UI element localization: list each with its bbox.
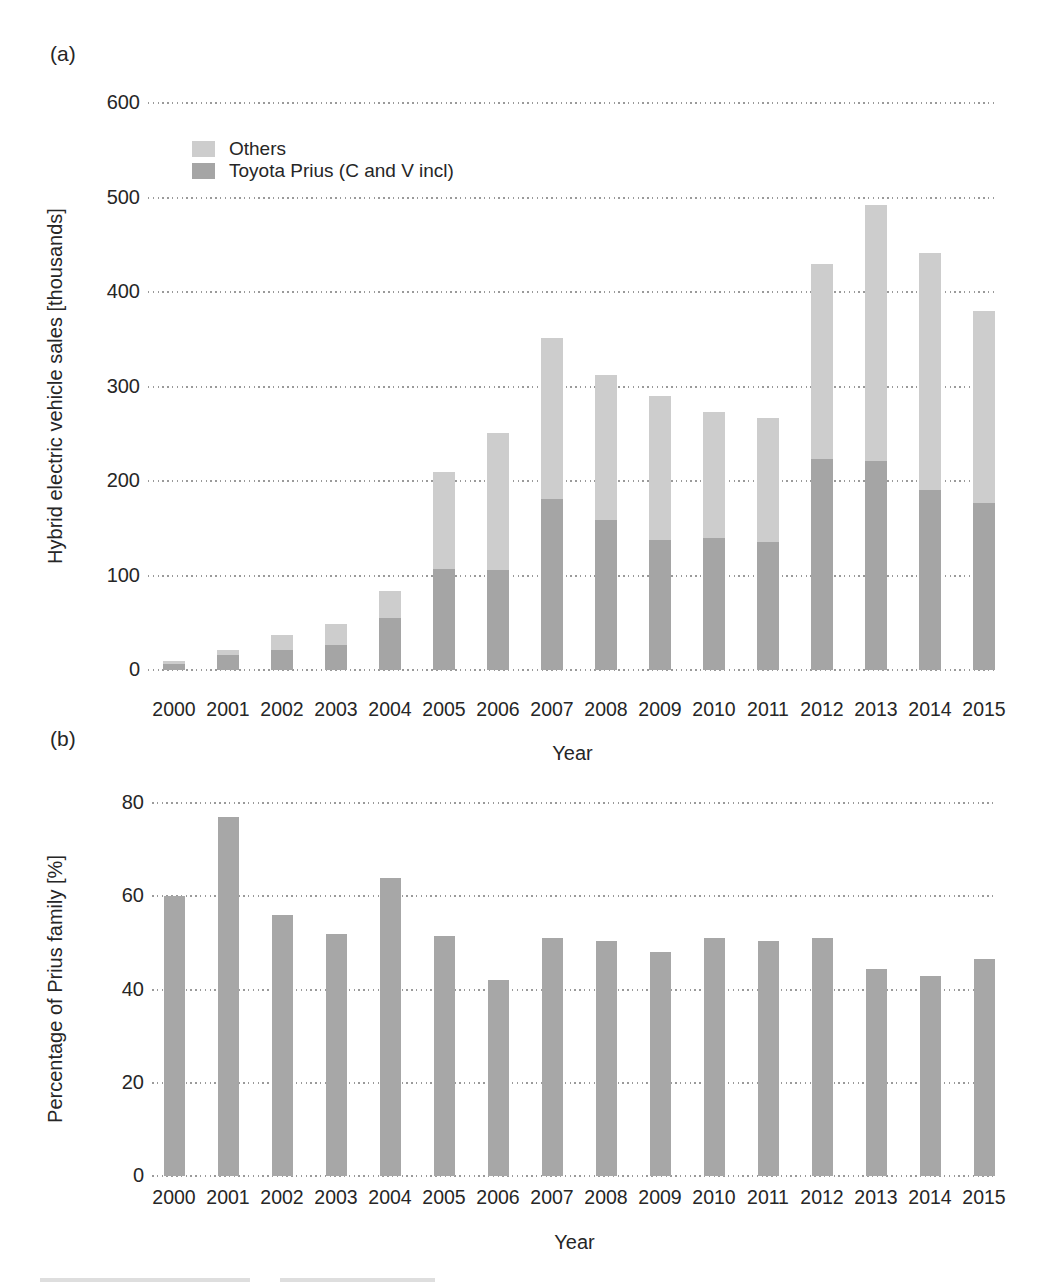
bar-2009-prius (649, 540, 671, 670)
panel-b-x-tick-label-2015: 2015 (957, 1186, 1011, 1209)
bar-2007-prius (541, 499, 563, 670)
bar-2012-prius (811, 459, 833, 670)
bar-2006-percent (488, 980, 509, 1176)
panel-b-x-tick-label-2010: 2010 (687, 1186, 741, 1209)
panel-b-x-tick-label-2005: 2005 (417, 1186, 471, 1209)
others-legend-swatch (192, 141, 215, 157)
panel-b-x-axis-title: Year (152, 1231, 997, 1254)
panel-a-y-tick-label-0: 0 (0, 658, 140, 681)
bar-2014-prius (919, 490, 941, 670)
bar-2002-others (271, 635, 293, 650)
panel-a-x-tick-label-2002: 2002 (255, 698, 309, 721)
bar-2004-others (379, 591, 401, 618)
bar-2013-percent (866, 969, 887, 1176)
panel-b-y-tick-label-20: 20 (0, 1071, 144, 1094)
bar-2001-percent (218, 817, 239, 1176)
panel-b-gridline-80 (152, 802, 997, 804)
bar-2000-prius (163, 664, 185, 670)
others-legend-label: Others (229, 138, 286, 160)
bar-2010-percent (704, 938, 725, 1176)
bar-2011-prius (757, 542, 779, 670)
bar-2008-prius (595, 520, 617, 670)
bar-2007-others (541, 338, 563, 499)
panel-b-x-tick-label-2003: 2003 (309, 1186, 363, 1209)
panel-a-y-tick-label-200: 200 (0, 469, 140, 492)
panel-a-y-tick-label-400: 400 (0, 280, 140, 303)
legend-item-others: Others (192, 138, 454, 160)
bar-2002-percent (272, 915, 293, 1176)
bar-2010-others (703, 412, 725, 538)
bar-2003-prius (325, 645, 347, 670)
bar-2015-others (973, 311, 995, 503)
bar-2014-others (919, 253, 941, 490)
panel-a-y-tick-label-600: 600 (0, 91, 140, 114)
bar-2000-others (163, 661, 185, 665)
panel-b-y-tick-label-80: 80 (0, 791, 144, 814)
panel-b-x-tick-label-2004: 2004 (363, 1186, 417, 1209)
bar-2014-percent (920, 976, 941, 1176)
panel-a-x-tick-label-2015: 2015 (957, 698, 1011, 721)
panel-a-y-tick-label-100: 100 (0, 564, 140, 587)
bar-2009-others (649, 396, 671, 540)
panel-a-x-tick-label-2003: 2003 (309, 698, 363, 721)
legend-item-prius: Toyota Prius (C and V incl) (192, 160, 454, 182)
bar-2013-prius (865, 461, 887, 670)
bar-2004-percent (380, 878, 401, 1176)
panel-a-x-tick-label-2006: 2006 (471, 698, 525, 721)
legend: Others Toyota Prius (C and V incl) (192, 138, 454, 182)
panel-a-gridline-600 (148, 102, 997, 104)
bar-2008-percent (596, 941, 617, 1176)
bar-2011-others (757, 418, 779, 543)
panel-a-x-tick-label-2008: 2008 (579, 698, 633, 721)
panel-b-label: (b) (50, 727, 76, 751)
bar-2006-prius (487, 570, 509, 670)
bar-2011-percent (758, 941, 779, 1176)
panel-b-x-tick-label-2007: 2007 (525, 1186, 579, 1209)
panel-a-x-tick-label-2000: 2000 (147, 698, 201, 721)
panel-b-y-tick-label-0: 0 (0, 1164, 144, 1187)
panel-b-x-tick-label-2013: 2013 (849, 1186, 903, 1209)
panel-b-x-tick-label-2002: 2002 (255, 1186, 309, 1209)
panel-a-y-tick-label-500: 500 (0, 186, 140, 209)
panel-b-x-tick-label-2001: 2001 (201, 1186, 255, 1209)
panel-b-x-tick-label-2012: 2012 (795, 1186, 849, 1209)
bar-2005-prius (433, 569, 455, 670)
bar-2009-percent (650, 952, 671, 1176)
panel-a-gridline-500 (148, 197, 997, 199)
bar-2005-others (433, 472, 455, 568)
bar-2012-others (811, 264, 833, 460)
panel-a-x-tick-label-2009: 2009 (633, 698, 687, 721)
bar-2003-percent (326, 934, 347, 1176)
panel-a-x-tick-label-2005: 2005 (417, 698, 471, 721)
bar-2002-prius (271, 650, 293, 670)
bar-2003-others (325, 624, 347, 646)
panel-b-x-tick-label-2000: 2000 (147, 1186, 201, 1209)
bar-2007-percent (542, 938, 563, 1176)
panel-a-x-tick-label-2010: 2010 (687, 698, 741, 721)
panel-a-x-tick-label-2012: 2012 (795, 698, 849, 721)
bar-2010-prius (703, 538, 725, 670)
panel-a-x-tick-label-2013: 2013 (849, 698, 903, 721)
panel-b-x-tick-label-2014: 2014 (903, 1186, 957, 1209)
figure: (a) Hybrid electric vehicle sales [thous… (0, 0, 1045, 1283)
bar-2004-prius (379, 618, 401, 670)
panel-a-label: (a) (50, 42, 76, 66)
bar-2000-percent (164, 896, 185, 1176)
panel-a-x-tick-label-2014: 2014 (903, 698, 957, 721)
panel-b-y-tick-label-40: 40 (0, 978, 144, 1001)
panel-b-x-tick-label-2009: 2009 (633, 1186, 687, 1209)
panel-a-x-tick-label-2011: 2011 (741, 698, 795, 721)
panel-a-x-axis-title: Year (148, 742, 997, 765)
panel-a-x-tick-label-2007: 2007 (525, 698, 579, 721)
panel-b-y-tick-label-60: 60 (0, 884, 144, 907)
panel-b-x-tick-label-2006: 2006 (471, 1186, 525, 1209)
panel-b-x-tick-label-2008: 2008 (579, 1186, 633, 1209)
bar-2015-percent (974, 959, 995, 1176)
panel-a-y-tick-label-300: 300 (0, 375, 140, 398)
bar-2013-others (865, 205, 887, 461)
bar-2005-percent (434, 936, 455, 1176)
prius-legend-swatch (192, 163, 215, 179)
bar-2012-percent (812, 938, 833, 1176)
panel-b-x-tick-label-2011: 2011 (741, 1186, 795, 1209)
prius-legend-label: Toyota Prius (C and V incl) (229, 160, 454, 182)
